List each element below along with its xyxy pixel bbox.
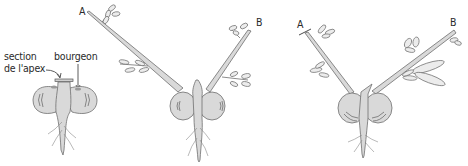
bud-right [75, 87, 81, 90]
leaf-cluster-b-top [450, 37, 462, 46]
label-branch-b-final: B [450, 16, 456, 28]
root [348, 135, 362, 142]
cotyledon-right [69, 87, 97, 114]
plant-diagram: .f { fill: #d9d9d9; stroke: #6e6e6e; str… [0, 0, 468, 166]
label-section-apex-line2: de l'apex [4, 62, 45, 74]
branch-a [87, 11, 183, 92]
seedling-decapitated [33, 64, 97, 155]
leaf-cluster-b-lower [402, 58, 447, 88]
stem-with-apex [359, 84, 372, 158]
apex-cut-surface [55, 79, 73, 82]
seedling-a-cut [299, 24, 462, 158]
cotyledon-left [170, 92, 196, 120]
label-branch-a: A [79, 5, 85, 17]
label-branch-b: B [256, 16, 262, 28]
leaf-cluster-b-middle [222, 70, 251, 87]
seedling-two-branches [87, 4, 251, 162]
cotyledon-left [33, 87, 59, 114]
label-section-apex-line1: section [4, 50, 37, 62]
label-branch-a-cut: A [297, 18, 303, 30]
bud-left [51, 85, 57, 88]
diagram-canvas: .f { fill: #d9d9d9; stroke: #6e6e6e; str… [0, 0, 468, 166]
branch-a-cut [305, 32, 354, 94]
stem-with-apex [193, 80, 203, 162]
label-bourgeon: bourgeon [54, 50, 97, 62]
leaf-cluster-b-upper [403, 37, 420, 53]
leaf-cluster-a-top [102, 4, 120, 25]
leaf-cluster-a-middle [310, 61, 330, 78]
stem [56, 82, 71, 155]
leaf-cluster-a-top [317, 24, 335, 39]
